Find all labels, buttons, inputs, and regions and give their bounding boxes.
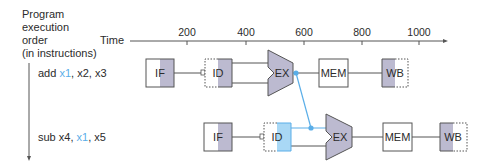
svg-text:EX: EX bbox=[333, 131, 348, 143]
register-x1-highlight: x1 bbox=[59, 67, 71, 79]
stage-id: ID bbox=[205, 59, 232, 87]
register-x1-highlight: x1 bbox=[77, 131, 89, 143]
pipeline-row-2: IF ID EX MEM WB bbox=[204, 114, 467, 160]
svg-text:IF: IF bbox=[155, 67, 165, 79]
stage-ex-alu: EX bbox=[268, 50, 293, 96]
instruction-1-label: add x1, x2, x3 bbox=[38, 67, 107, 79]
stage-mem: MEM bbox=[383, 123, 412, 151]
tick-400: 400 bbox=[237, 26, 255, 38]
svg-text:MEM: MEM bbox=[321, 67, 347, 79]
axis-label-line-3: order bbox=[22, 34, 48, 46]
forward-dest-dot bbox=[308, 125, 313, 130]
tick-1000: 1000 bbox=[407, 26, 431, 38]
program-order-arrow bbox=[27, 63, 31, 161]
tick-200: 200 bbox=[178, 26, 196, 38]
stage-if: IF bbox=[204, 123, 232, 151]
svg-text:ID: ID bbox=[272, 131, 283, 143]
tick-800: 800 bbox=[353, 26, 371, 38]
svg-text:WB: WB bbox=[386, 67, 404, 79]
forward-source-dot bbox=[293, 70, 298, 75]
axis-label-line-1: Program bbox=[22, 8, 64, 20]
axis-label-line-2: execution bbox=[22, 21, 69, 33]
svg-text:IF: IF bbox=[213, 131, 223, 143]
svg-text:MEM: MEM bbox=[385, 131, 411, 143]
pipeline-diagram: Program execution order (in instructions… bbox=[0, 0, 486, 168]
stage-wb: WB bbox=[440, 123, 467, 151]
program-order-label: Program execution order (in instructions… bbox=[22, 8, 97, 59]
instruction-2-label: sub x4, x1, x5 bbox=[38, 131, 106, 143]
svg-text:EX: EX bbox=[275, 67, 290, 79]
forwarding-path bbox=[293, 70, 313, 130]
stage-id-highlighted: ID bbox=[264, 123, 291, 151]
svg-text:ID: ID bbox=[213, 67, 224, 79]
svg-text:WB: WB bbox=[444, 131, 462, 143]
stage-wb: WB bbox=[382, 59, 408, 87]
axis-label-line-4: (in instructions) bbox=[22, 47, 97, 59]
time-label: Time bbox=[100, 34, 124, 46]
time-axis: 200 400 600 800 1000 bbox=[130, 26, 448, 45]
stage-mem: MEM bbox=[319, 59, 348, 87]
pipeline-row-1: IF ID EX MEM WB bbox=[146, 50, 408, 96]
stage-ex-alu: EX bbox=[326, 114, 352, 160]
tick-600: 600 bbox=[295, 26, 313, 38]
stage-if: IF bbox=[146, 59, 174, 87]
